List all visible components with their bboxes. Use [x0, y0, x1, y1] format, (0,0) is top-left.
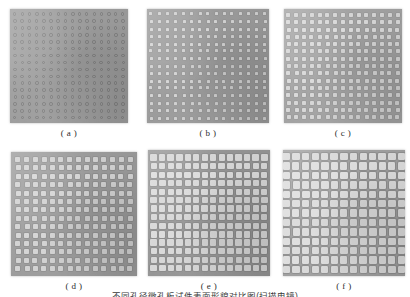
hole	[150, 72, 153, 75]
hole	[15, 224, 20, 229]
hole	[214, 20, 217, 23]
hole	[42, 19, 45, 22]
hole	[340, 200, 347, 207]
panel-caption-c: ( c )	[284, 128, 402, 138]
hole	[264, 20, 267, 23]
hole	[263, 43, 266, 46]
hole	[119, 233, 124, 238]
hole	[127, 207, 132, 212]
hole	[333, 28, 337, 32]
hole	[64, 33, 67, 36]
hole	[71, 102, 74, 105]
hole	[218, 180, 224, 186]
hole	[294, 20, 298, 24]
hole	[158, 20, 161, 23]
hole	[333, 101, 337, 105]
hole	[286, 20, 290, 24]
hole	[222, 43, 225, 46]
hole	[310, 101, 314, 105]
hole	[92, 19, 95, 22]
hole	[321, 238, 328, 245]
hole	[356, 101, 360, 105]
hole	[292, 219, 299, 226]
hole	[41, 266, 46, 271]
hole	[35, 12, 38, 15]
hole	[261, 189, 267, 195]
hole	[71, 75, 74, 78]
hole	[359, 162, 366, 169]
hole	[176, 172, 182, 178]
hole	[49, 102, 52, 105]
hole	[341, 13, 345, 17]
hole	[56, 88, 59, 91]
hole	[239, 102, 242, 105]
hole	[283, 266, 290, 273]
hole	[71, 40, 74, 43]
hole	[76, 199, 81, 204]
hole	[388, 57, 392, 61]
hole	[302, 35, 306, 39]
hole	[395, 115, 399, 119]
hole	[292, 200, 299, 207]
hole	[283, 247, 290, 254]
hole	[185, 180, 191, 186]
hole	[215, 49, 218, 52]
hole	[317, 101, 321, 105]
hole	[174, 20, 177, 23]
hole	[255, 80, 258, 83]
hole	[150, 65, 153, 68]
hole	[63, 61, 66, 64]
hole	[107, 88, 110, 91]
hole	[302, 162, 309, 169]
hole	[67, 174, 72, 179]
hole	[292, 238, 299, 245]
hole	[185, 239, 191, 245]
hole	[263, 49, 266, 52]
hole	[379, 162, 386, 169]
hole	[388, 79, 392, 83]
hole	[350, 153, 357, 160]
hole	[84, 165, 89, 170]
hole	[21, 81, 24, 84]
hole	[50, 199, 55, 204]
hole	[210, 257, 216, 263]
hole	[294, 79, 298, 83]
hole	[231, 65, 234, 68]
hole	[182, 43, 185, 46]
hole	[350, 181, 357, 188]
hole	[168, 180, 174, 186]
hole	[121, 68, 124, 71]
hole	[227, 189, 233, 195]
hole	[372, 57, 376, 61]
hole	[50, 258, 55, 263]
hole	[166, 28, 169, 31]
hole	[193, 257, 199, 263]
hole	[49, 75, 52, 78]
hole	[100, 33, 103, 36]
hole	[93, 199, 98, 204]
hole	[92, 54, 95, 57]
hole	[369, 162, 376, 169]
hole	[223, 49, 226, 52]
hole	[295, 71, 299, 75]
hole	[150, 197, 156, 203]
hole	[41, 207, 46, 212]
hole	[100, 54, 103, 57]
hole	[166, 57, 169, 60]
hole	[214, 35, 217, 38]
hole	[182, 102, 185, 105]
hole	[71, 81, 74, 84]
hole	[330, 153, 337, 160]
hole	[110, 258, 115, 263]
hole	[359, 209, 366, 216]
hole	[331, 219, 338, 226]
hole	[398, 228, 405, 235]
hole	[223, 20, 226, 23]
hole	[341, 42, 345, 46]
hole	[190, 117, 193, 120]
hole	[235, 154, 241, 160]
hole	[263, 72, 266, 75]
hole	[334, 35, 338, 39]
hole	[159, 154, 165, 160]
hole	[110, 199, 115, 204]
